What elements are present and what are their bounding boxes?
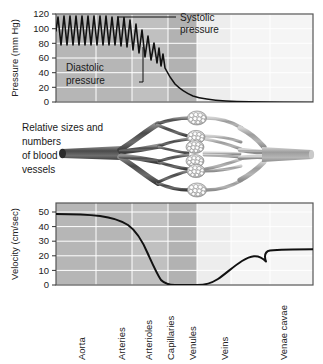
velocity-chart: 0 10 20 30 40 50 Velocity (cm/sec) <box>9 203 313 290</box>
category-label-arteries: Arteries <box>116 327 127 360</box>
circulation-figure: 0 20 40 60 80 100 120 Pressure (mm Hg) S… <box>0 0 323 364</box>
velocity-ytick-0: 0 <box>44 279 49 290</box>
pressure-ytick-60: 60 <box>38 52 49 63</box>
vessel-diagram-panel: Relative sizes and numbers of blood vess… <box>22 111 314 197</box>
systolic-label-line1: Systolic <box>180 12 214 23</box>
category-label-aorta: Aorta <box>76 337 87 360</box>
capillary-bed <box>188 183 207 197</box>
velocity-y-axis-label: Velocity (cm/sec) <box>9 208 20 280</box>
diastolic-label-line2: pressure <box>66 75 105 86</box>
systolic-label-line2: pressure <box>180 24 219 35</box>
pressure-ytick-20: 20 <box>38 82 49 93</box>
aorta-lumen <box>59 149 66 159</box>
velocity-ytick-40: 40 <box>38 221 49 232</box>
velocity-ytick-20: 20 <box>38 250 49 261</box>
category-label-arterioles: Arterioles <box>143 320 154 360</box>
vessel-caption-line-2: numbers <box>22 136 61 147</box>
pressure-ytick-80: 80 <box>38 38 49 49</box>
category-label-veins: Veins <box>219 337 230 360</box>
pressure-ytick-0: 0 <box>44 96 49 107</box>
vessel-caption-line-3: of blood <box>22 150 58 161</box>
capillary-bed <box>187 164 205 177</box>
vena-cava-vessel <box>262 147 312 162</box>
pressure-ytick-100: 100 <box>33 23 49 34</box>
velocity-y-axis: 0 10 20 30 40 50 <box>38 206 56 290</box>
pressure-ytick-120: 120 <box>33 8 49 19</box>
vessel-caption-line-1: Relative sizes and <box>22 122 103 133</box>
figure-canvas: 0 20 40 60 80 100 120 Pressure (mm Hg) S… <box>0 0 323 364</box>
velocity-ytick-50: 50 <box>38 206 49 217</box>
vessel-caption-line-4: vessels <box>22 164 55 175</box>
vena-cava-lumen <box>309 150 314 159</box>
category-label-venae-cavae: Venae cavae <box>278 305 289 360</box>
artery-branches <box>120 118 190 190</box>
category-label-capillaries: Capillaries <box>165 315 176 360</box>
pressure-chart: 0 20 40 60 80 100 120 Pressure (mm Hg) S… <box>9 8 313 107</box>
band-veins-venaecavae <box>231 203 313 285</box>
velocity-ytick-30: 30 <box>38 235 49 246</box>
velocity-ytick-10: 10 <box>38 265 49 276</box>
aorta-vessel <box>62 146 122 160</box>
capillary-bed <box>188 111 207 125</box>
pressure-y-axis: 0 20 40 60 80 100 120 <box>33 8 56 107</box>
diastolic-label-line1: Diastolic <box>66 62 104 73</box>
category-axis-labels: Aorta Arteries Arterioles Capillaries Ve… <box>76 305 289 360</box>
pressure-ytick-40: 40 <box>38 67 49 78</box>
capillary-bed <box>186 141 204 154</box>
vein-branches <box>204 118 264 190</box>
band-capillaries <box>168 203 197 285</box>
pressure-y-axis-label: Pressure (mm Hg) <box>9 19 20 97</box>
category-label-venules: Venules <box>187 326 198 360</box>
band-arterioles <box>132 203 168 285</box>
